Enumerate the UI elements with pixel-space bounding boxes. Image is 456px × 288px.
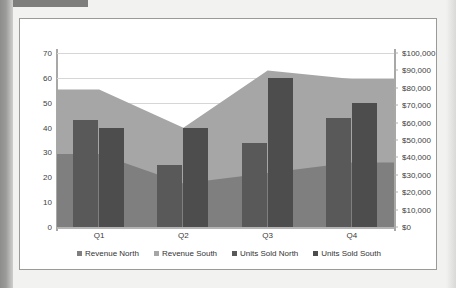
chart-legend[interactable]: Revenue NorthRevenue SouthUnits Sold Nor… bbox=[20, 249, 438, 258]
right-axis-tickmark bbox=[394, 227, 398, 228]
legend-swatch-icon bbox=[77, 251, 82, 256]
legend-label: Revenue North bbox=[85, 249, 139, 258]
category-label-q2: Q2 bbox=[178, 231, 189, 240]
category-label-q4: Q4 bbox=[347, 231, 358, 240]
chart-frame[interactable]: 010203040506070 $0$10,000$20,000$30,000$… bbox=[19, 18, 437, 270]
right-axis-tick-label: $90,000 bbox=[402, 66, 431, 75]
category-label-q3: Q3 bbox=[262, 231, 273, 240]
left-axis-tick-label: 10 bbox=[43, 198, 52, 207]
bar-units-sold-north-q2[interactable] bbox=[157, 165, 182, 227]
right-axis-tick-label: $70,000 bbox=[402, 101, 431, 110]
left-axis-tick-label: 30 bbox=[43, 148, 52, 157]
bar-units-sold-north-q3[interactable] bbox=[242, 143, 267, 228]
left-axis-tick-label: 70 bbox=[43, 49, 52, 58]
right-axis-tick-label: $50,000 bbox=[402, 136, 431, 145]
scan-edge-strip bbox=[0, 0, 13, 288]
legend-swatch-icon bbox=[313, 251, 318, 256]
right-axis-tick-label: $30,000 bbox=[402, 170, 431, 179]
right-axis-tick-label: $40,000 bbox=[402, 153, 431, 162]
legend-swatch-icon bbox=[232, 251, 237, 256]
bar-units-sold-north-q4[interactable] bbox=[326, 118, 351, 227]
bar-units-sold-south-q1[interactable] bbox=[99, 128, 124, 227]
legend-label: Revenue South bbox=[162, 249, 217, 258]
right-axis-tickmark bbox=[394, 105, 398, 106]
right-axis-tick-label: $60,000 bbox=[402, 118, 431, 127]
bar-units-sold-north-q1[interactable] bbox=[73, 120, 98, 227]
left-axis-tick-label: 50 bbox=[43, 98, 52, 107]
scan-edge-strip-top bbox=[13, 0, 88, 7]
plot-area: 010203040506070 $0$10,000$20,000$30,000$… bbox=[57, 53, 394, 227]
page-right-shading bbox=[446, 0, 456, 288]
left-axis-tick-label: 40 bbox=[43, 123, 52, 132]
right-axis-tick-label: $80,000 bbox=[402, 83, 431, 92]
right-axis-tickmark bbox=[394, 192, 398, 193]
right-axis-tickmark bbox=[394, 209, 398, 210]
right-axis-tickmark bbox=[394, 140, 398, 141]
left-axis-tick-label: 60 bbox=[43, 73, 52, 82]
right-axis-tick-label: $0 bbox=[402, 223, 411, 232]
right-axis-tickmark bbox=[394, 53, 398, 54]
bar-units-sold-south-q4[interactable] bbox=[352, 103, 377, 227]
right-axis-tickmark bbox=[394, 87, 398, 88]
legend-label: Units Sold South bbox=[321, 249, 381, 258]
legend-item-revenue-south[interactable]: Revenue South bbox=[154, 249, 217, 258]
legend-label: Units Sold North bbox=[240, 249, 298, 258]
category-label-q1: Q1 bbox=[94, 231, 105, 240]
bar-units-sold-south-q2[interactable] bbox=[183, 128, 208, 227]
right-axis-tick-label: $100,000 bbox=[402, 49, 435, 58]
right-axis-tick-label: $20,000 bbox=[402, 188, 431, 197]
right-axis-tickmark bbox=[394, 157, 398, 158]
left-axis-tick-label: 20 bbox=[43, 173, 52, 182]
left-axis-tick-label: 0 bbox=[48, 223, 52, 232]
right-axis-tickmark bbox=[394, 70, 398, 71]
bar-units-sold-south-q3[interactable] bbox=[268, 78, 293, 227]
right-axis-tickmark bbox=[394, 174, 398, 175]
legend-item-units-sold-north[interactable]: Units Sold North bbox=[232, 249, 298, 258]
column-series-layer bbox=[57, 53, 394, 227]
page-canvas: 010203040506070 $0$10,000$20,000$30,000$… bbox=[0, 0, 456, 288]
legend-item-units-sold-south[interactable]: Units Sold South bbox=[313, 249, 381, 258]
right-axis-tickmark bbox=[394, 122, 398, 123]
category-axis-line bbox=[57, 227, 394, 229]
legend-swatch-icon bbox=[154, 251, 159, 256]
right-axis-tick-label: $10,000 bbox=[402, 205, 431, 214]
legend-item-revenue-north[interactable]: Revenue North bbox=[77, 249, 139, 258]
